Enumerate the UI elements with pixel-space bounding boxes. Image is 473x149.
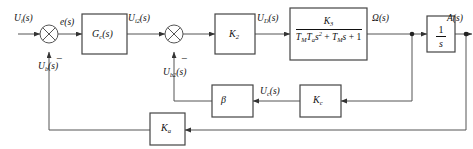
plant-fraction-bar: [296, 29, 362, 30]
label-input-signal: Ui(s): [14, 14, 33, 24]
block-label-amplifier: K2: [229, 29, 239, 39]
block-label-outer-gain: Ka: [161, 123, 171, 133]
integrator-denominator: s: [431, 38, 451, 49]
label-amplifier-output-signal: UD(s): [257, 14, 279, 24]
block-diagram-canvas: Ui(s) e(s) Ui2(s) UD(s) Ω(s) A(s) Ub(s) …: [0, 0, 473, 149]
label-inner-feedback-signal: Ub2(s): [163, 68, 186, 78]
block-beta-box: [212, 85, 253, 117]
block-label-current-gain: Kc: [313, 95, 323, 105]
block-label-beta: β: [221, 95, 226, 105]
label-current-signal: Uc(s): [260, 87, 280, 97]
label-controller-output-signal: Ui2(s): [128, 14, 150, 24]
label-error-signal: e(s): [60, 18, 74, 28]
label-speed-signal: Ω(s): [372, 14, 389, 24]
integrator-numerator: 1: [431, 24, 451, 35]
junction-dot-output: [464, 32, 469, 37]
block-label-integrator: 1 s: [431, 24, 451, 49]
label-output-signal: A(s): [447, 14, 463, 24]
sum1-minus-sign: −: [56, 53, 62, 64]
block-label-plant-transfer-function: K3 TMTas2 + TMs + 1: [292, 16, 365, 43]
sum2-minus-sign: −: [181, 53, 187, 64]
integrator-fraction-bar: [436, 36, 446, 37]
summing-junction-1: [40, 25, 58, 43]
junction-dot-speed: [410, 32, 415, 37]
summing-junction-2: [165, 25, 183, 43]
block-label-controller: Gc(s): [92, 29, 113, 39]
plant-denominator: TMTas2 + TMs + 1: [292, 32, 365, 43]
plant-numerator: K3: [292, 16, 365, 28]
